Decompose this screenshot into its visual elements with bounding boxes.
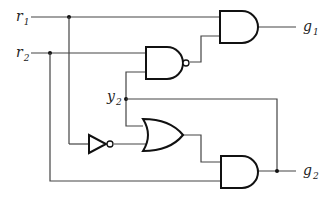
label-r1: r1 (16, 8, 29, 27)
label-g2: g2 (303, 162, 319, 181)
or-gate (143, 119, 183, 151)
nand-bubble (183, 60, 189, 66)
circuit-diagram: r1 r2 y2 g1 g2 (0, 0, 334, 199)
label-r2: r2 (16, 44, 30, 63)
wire-nand-out (190, 36, 220, 62)
wire-or-out (183, 135, 221, 162)
junction-g2 (275, 169, 279, 173)
not-bubble (107, 141, 113, 147)
label-y2: y2 (106, 88, 122, 107)
not-gate (89, 135, 106, 153)
label-g1: g1 (303, 18, 319, 37)
nand-gate (146, 47, 183, 79)
and-gate-g1 (220, 11, 258, 43)
and-gate-g2 (221, 156, 258, 188)
